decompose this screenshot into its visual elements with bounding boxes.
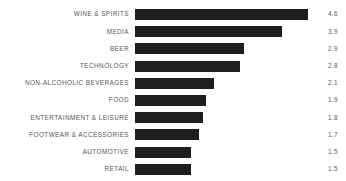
chart-row: FOOTWEAR & ACCESSORIES 1.7 bbox=[0, 126, 346, 143]
chart-row: MEDIA 3.9 bbox=[0, 23, 346, 40]
value-bar[interactable] bbox=[135, 43, 244, 54]
value-label: 1.9 bbox=[322, 97, 346, 103]
value-label: 2.9 bbox=[322, 46, 346, 52]
value-bar[interactable] bbox=[135, 26, 282, 37]
bar-track bbox=[135, 43, 322, 54]
category-label: TECHNOLOGY bbox=[0, 63, 135, 69]
bar-track bbox=[135, 112, 322, 123]
value-bar[interactable] bbox=[135, 9, 308, 20]
value-bar[interactable] bbox=[135, 112, 203, 123]
chart-row: TECHNOLOGY 2.8 bbox=[0, 58, 346, 75]
value-bar[interactable] bbox=[135, 61, 240, 72]
category-label: BEER bbox=[0, 46, 135, 52]
category-label: RETAIL bbox=[0, 166, 135, 172]
chart-row: BEER 2.9 bbox=[0, 40, 346, 57]
bar-track bbox=[135, 78, 322, 89]
value-label: 1.5 bbox=[322, 166, 346, 172]
bar-track bbox=[135, 26, 322, 37]
chart-row: WINE & SPIRITS 4.6 bbox=[0, 6, 346, 23]
bar-track bbox=[135, 164, 322, 175]
category-label: NON-ALCOHOLIC BEVERAGES bbox=[0, 80, 135, 86]
horizontal-bar-chart: WINE & SPIRITS 4.6 MEDIA 3.9 BEER 2.9 TE… bbox=[0, 0, 346, 181]
bar-track bbox=[135, 147, 322, 158]
chart-row: RETAIL 1.5 bbox=[0, 161, 346, 178]
bar-track bbox=[135, 95, 322, 106]
chart-row: FOOD 1.9 bbox=[0, 92, 346, 109]
category-label: ENTERTAINMENT & LEISURE bbox=[0, 115, 135, 121]
value-bar[interactable] bbox=[135, 147, 191, 158]
bar-track bbox=[135, 61, 322, 72]
value-label: 3.9 bbox=[322, 29, 346, 35]
chart-row: ENTERTAINMENT & LEISURE 1.8 bbox=[0, 109, 346, 126]
bar-track bbox=[135, 129, 322, 140]
value-bar[interactable] bbox=[135, 95, 206, 106]
category-label: FOOD bbox=[0, 97, 135, 103]
chart-row: NON-ALCOHOLIC BEVERAGES 2.1 bbox=[0, 75, 346, 92]
value-label: 4.6 bbox=[322, 11, 346, 17]
value-label: 2.8 bbox=[322, 63, 346, 69]
value-bar[interactable] bbox=[135, 129, 199, 140]
value-label: 1.8 bbox=[322, 115, 346, 121]
value-label: 1.7 bbox=[322, 132, 346, 138]
value-bar[interactable] bbox=[135, 164, 191, 175]
chart-rows: WINE & SPIRITS 4.6 MEDIA 3.9 BEER 2.9 TE… bbox=[0, 0, 346, 181]
category-label: AUTOMOTIVE bbox=[0, 149, 135, 155]
value-label: 2.1 bbox=[322, 80, 346, 86]
category-label: FOOTWEAR & ACCESSORIES bbox=[0, 132, 135, 138]
category-label: WINE & SPIRITS bbox=[0, 11, 135, 17]
bar-track bbox=[135, 9, 322, 20]
category-label: MEDIA bbox=[0, 29, 135, 35]
value-label: 1.5 bbox=[322, 149, 346, 155]
value-bar[interactable] bbox=[135, 78, 214, 89]
chart-row: AUTOMOTIVE 1.5 bbox=[0, 144, 346, 161]
